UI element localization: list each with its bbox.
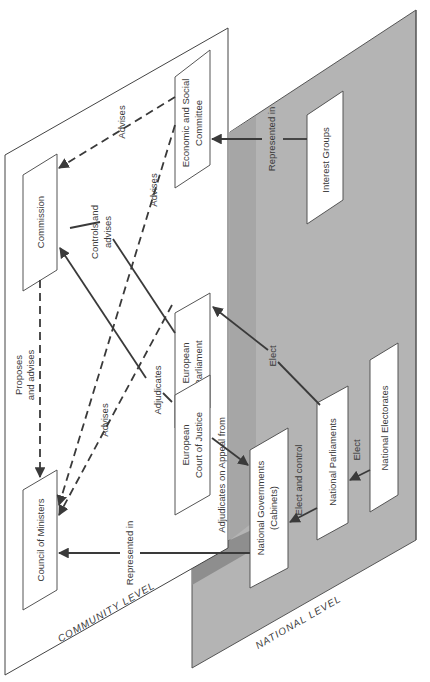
- svg-text:Interest Groups: Interest Groups: [320, 127, 331, 193]
- svg-text:Committee: Committee: [193, 100, 204, 146]
- svg-text:Elect: Elect: [351, 439, 362, 460]
- svg-text:(Cabinets): (Cabinets): [268, 486, 279, 530]
- svg-text:European: European: [180, 424, 191, 465]
- node-european-court-of-justice: European Court of Justice: [175, 375, 210, 515]
- svg-text:Advises: Advises: [148, 173, 159, 207]
- svg-text:National Electorates: National Electorates: [379, 385, 390, 470]
- node-interest-groups: Interest Groups: [307, 91, 343, 224]
- svg-text:Represented in: Represented in: [266, 107, 277, 171]
- svg-text:Advises: Advises: [116, 105, 127, 139]
- node-commission: Commission: [23, 154, 57, 291]
- svg-text:Economic and Social: Economic and Social: [180, 79, 191, 168]
- node-council-of-ministers: Council of Ministers: [23, 470, 57, 610]
- svg-text:Advises: Advises: [99, 403, 110, 437]
- svg-text:Commission: Commission: [35, 196, 46, 248]
- svg-text:National Parliaments: National Parliaments: [327, 418, 338, 506]
- svg-text:Adjudicates on Appeal from: Adjudicates on Appeal from: [216, 417, 227, 533]
- eu-institutions-diagram: Commission Council of Ministers European…: [0, 0, 430, 682]
- node-national-governments: National Governments (Cabinets): [250, 428, 288, 588]
- node-national-parliaments: National Parliaments: [317, 386, 348, 540]
- svg-text:Elect and control: Elect and control: [293, 445, 304, 516]
- svg-text:and advises: and advises: [25, 349, 36, 400]
- svg-text:Council of Ministers: Council of Ministers: [35, 498, 46, 581]
- svg-text:advises: advises: [102, 216, 113, 248]
- node-national-electorates: National Electorates: [370, 343, 398, 512]
- svg-text:Controls and: Controls and: [89, 205, 100, 259]
- svg-text:National Governments: National Governments: [255, 460, 266, 555]
- svg-text:Adjudicates: Adjudicates: [152, 365, 163, 414]
- svg-text:Court of Justice: Court of Justice: [193, 412, 204, 478]
- svg-text:Represented in: Represented in: [124, 521, 135, 585]
- svg-text:European: European: [180, 342, 191, 383]
- svg-text:Proposes: Proposes: [13, 355, 24, 395]
- svg-text:Elect: Elect: [267, 345, 278, 366]
